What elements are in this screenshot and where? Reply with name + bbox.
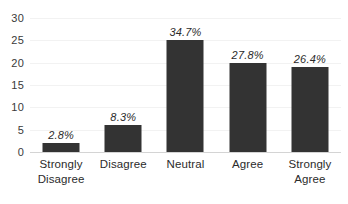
bar-slot: 27.8%	[217, 18, 279, 152]
y-axis-tick-label: 15	[11, 79, 24, 91]
bar-slot: 34.7%	[154, 18, 216, 152]
bar-data-label: 8.3%	[110, 111, 136, 123]
bar-data-label: 27.8%	[232, 49, 264, 61]
y-axis-tick-label: 20	[11, 57, 24, 69]
x-axis-category-label: Agree	[217, 157, 279, 172]
bar-data-label: 2.8%	[48, 129, 74, 141]
y-axis-tick-label: 0	[18, 146, 24, 158]
x-axis-category-line: Strongly	[279, 157, 341, 172]
x-axis-category-label: StronglyDisagree	[30, 157, 92, 186]
bar[interactable]	[229, 63, 266, 152]
x-axis-category-line: Disagree	[92, 157, 154, 172]
x-axis-category-line: Neutral	[154, 157, 216, 172]
bar-series: 2.8%8.3%34.7%27.8%26.4%	[30, 18, 341, 152]
bar-data-label: 34.7%	[169, 26, 201, 38]
x-axis-category-line: Agree	[279, 172, 341, 187]
x-axis-category-label: Disagree	[92, 157, 154, 172]
x-axis-category-line: Agree	[217, 157, 279, 172]
bar-slot: 2.8%	[30, 18, 92, 152]
bar-chart: 051015202530 2.8%8.3%34.7%27.8%26.4% Str…	[0, 0, 348, 204]
bar-slot: 8.3%	[92, 18, 154, 152]
x-axis-category-label: Neutral	[154, 157, 216, 172]
y-axis-tick-label: 25	[11, 34, 24, 46]
y-axis-tick-label: 5	[18, 124, 24, 136]
y-axis-tick-label: 10	[11, 101, 24, 113]
bar[interactable]	[43, 143, 80, 152]
x-axis-category-label: StronglyAgree	[279, 157, 341, 186]
bar-data-label: 26.4%	[294, 53, 326, 65]
bar[interactable]	[167, 40, 204, 152]
gridline	[30, 152, 341, 153]
bar[interactable]	[105, 125, 142, 152]
bar-slot: 26.4%	[279, 18, 341, 152]
y-axis-tick-label: 30	[11, 12, 24, 24]
x-axis-category-line: Disagree	[30, 172, 92, 187]
x-axis-category-line: Strongly	[30, 157, 92, 172]
plot-area: 051015202530 2.8%8.3%34.7%27.8%26.4%	[30, 18, 341, 152]
bar[interactable]	[291, 67, 328, 152]
x-axis-labels: StronglyDisagreeDisagreeNeutralAgreeStro…	[30, 157, 341, 202]
